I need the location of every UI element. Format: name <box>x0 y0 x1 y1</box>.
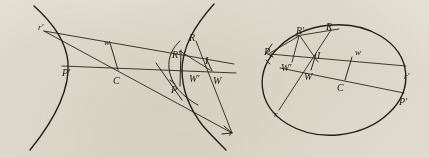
label-R-prime-left: R' <box>172 50 180 60</box>
label-r-right: r <box>274 110 278 119</box>
ellipse-outline <box>257 18 412 142</box>
label-I-right: I <box>317 51 320 61</box>
label-W-prime-right: W' <box>281 63 291 73</box>
chord-upper-r-prime-to-r <box>44 31 232 133</box>
tick-w-to-C <box>110 43 118 70</box>
label-P-right: P <box>264 47 270 57</box>
label-w-lower-left: w <box>104 38 110 47</box>
hyperbola-left-branch <box>30 6 68 150</box>
label-R-left: R <box>189 33 195 43</box>
chord-R-to-r <box>196 41 232 133</box>
label-W-right: W <box>304 72 312 82</box>
label-r-left: r <box>229 129 233 138</box>
figure-root: r' w P' C R R' I W' W P r R' R P I w W' … <box>0 0 429 158</box>
label-r-prime-left: r' <box>38 23 43 32</box>
chord-R-prime-descending-right <box>300 36 318 62</box>
label-R-right: R <box>326 22 332 32</box>
label-I-left: I <box>205 56 208 66</box>
label-P-prime-left: P' <box>62 68 70 78</box>
right-panel-group <box>257 18 412 142</box>
label-R-prime-right: R' <box>296 26 304 36</box>
label-W-left: W <box>213 76 221 86</box>
label-r-prime-right: r' <box>404 72 409 81</box>
label-w-right: w <box>355 48 361 57</box>
label-P-left: P <box>171 85 177 95</box>
label-C-right: C <box>337 83 344 93</box>
label-W-prime-left: W' <box>189 74 199 84</box>
left-panel-group <box>30 4 236 150</box>
label-P-prime-right: P' <box>399 97 407 107</box>
label-C-left: C <box>113 76 120 86</box>
